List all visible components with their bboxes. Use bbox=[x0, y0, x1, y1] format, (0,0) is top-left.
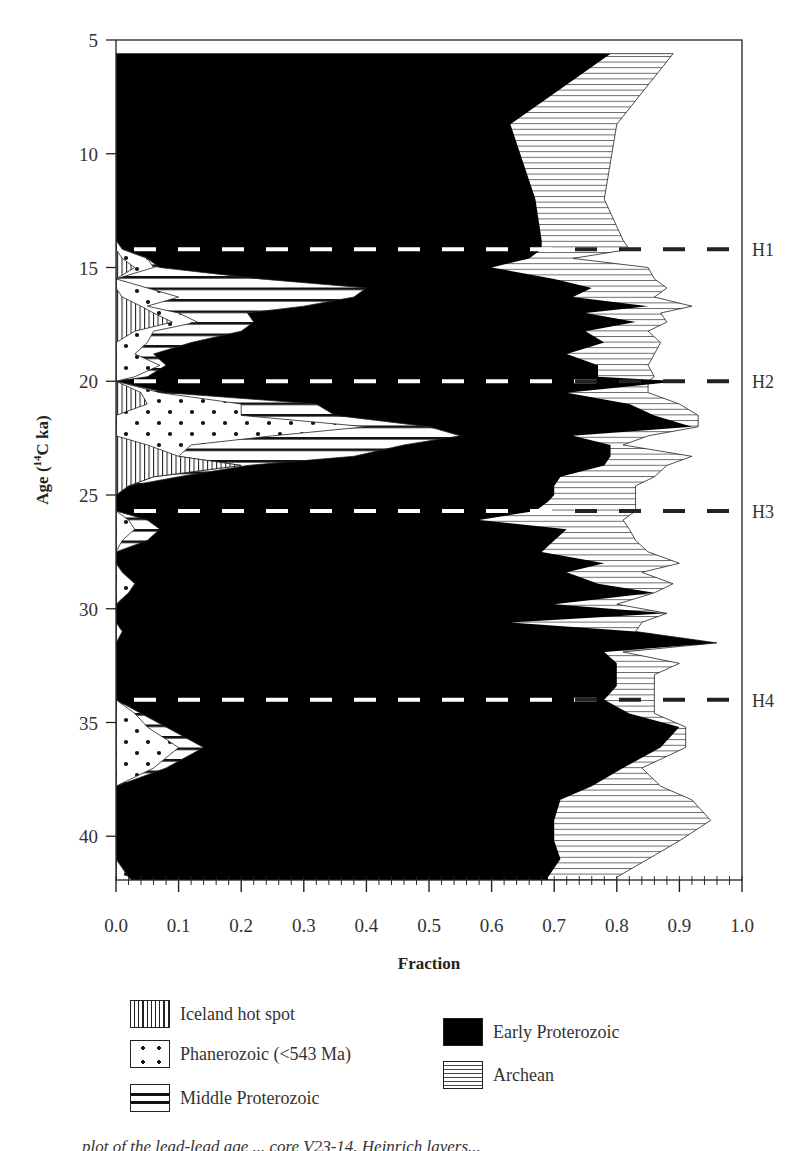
x-tick-label: 1.0 bbox=[730, 915, 754, 936]
x-tick-label: 0.3 bbox=[292, 915, 316, 936]
y-tick-label: 15 bbox=[79, 258, 98, 279]
x-tick-label: 0.2 bbox=[229, 915, 253, 936]
y-axis-title: Age (14C ka) bbox=[31, 415, 52, 504]
legend-label: Middle Proterozoic bbox=[180, 1088, 319, 1109]
heinrich-label: H1 bbox=[752, 240, 774, 260]
y-tick-label: 25 bbox=[79, 485, 98, 506]
x-tick-label: 0.0 bbox=[104, 915, 128, 936]
y-tick-label: 35 bbox=[79, 713, 98, 734]
x-tick-label: 0.4 bbox=[355, 915, 379, 936]
x-tick-label: 0.8 bbox=[605, 915, 629, 936]
figure-caption: plot of the lead-lead age ... core V23-1… bbox=[82, 1137, 481, 1151]
legend-item-middle-proterozoic: Middle Proterozoic bbox=[130, 1084, 319, 1112]
legend-label: Early Proterozoic bbox=[493, 1022, 619, 1043]
vertical-lines-pattern-icon bbox=[130, 1000, 170, 1028]
solid-black-pattern-icon bbox=[443, 1018, 483, 1046]
legend-item-phanerozoic: Phanerozoic (<543 Ma) bbox=[130, 1040, 351, 1068]
stacked-areas bbox=[116, 54, 717, 896]
legend-item-iceland: Iceland hot spot bbox=[130, 1000, 295, 1028]
thick-lines-pattern-icon bbox=[130, 1084, 170, 1112]
legend-label: Archean bbox=[493, 1065, 554, 1086]
x-axis: 0.00.10.20.30.40.50.60.70.80.91.0 bbox=[104, 876, 754, 936]
y-axis: 510152025303540 bbox=[79, 30, 116, 847]
x-tick-label: 0.5 bbox=[417, 915, 441, 936]
x-tick-label: 0.1 bbox=[167, 915, 191, 936]
legend-item-archean: Archean bbox=[443, 1061, 554, 1089]
thin-lines-pattern-icon bbox=[443, 1061, 483, 1089]
legend-label: Iceland hot spot bbox=[180, 1004, 295, 1025]
x-tick-label: 0.6 bbox=[480, 915, 504, 936]
x-tick-label: 0.7 bbox=[542, 915, 566, 936]
stacked-area-chart: H1H2H3H4 510152025303540 0.00.10.20.30.4… bbox=[0, 0, 811, 1000]
y-tick-label: 10 bbox=[79, 144, 98, 165]
heinrich-label: H2 bbox=[752, 372, 774, 392]
y-tick-label: 20 bbox=[79, 371, 98, 392]
legend-item-early-proterozoic: Early Proterozoic bbox=[443, 1018, 619, 1046]
legend-label: Phanerozoic (<543 Ma) bbox=[180, 1044, 351, 1065]
y-tick-label: 30 bbox=[79, 599, 98, 620]
x-tick-label: 0.9 bbox=[668, 915, 692, 936]
heinrich-label: H3 bbox=[752, 502, 774, 522]
heinrich-label: H4 bbox=[752, 691, 774, 711]
x-axis-title: Fraction bbox=[398, 954, 461, 973]
y-tick-label: 5 bbox=[89, 30, 99, 51]
dots-pattern-icon bbox=[130, 1040, 170, 1068]
y-tick-label: 40 bbox=[79, 826, 98, 847]
